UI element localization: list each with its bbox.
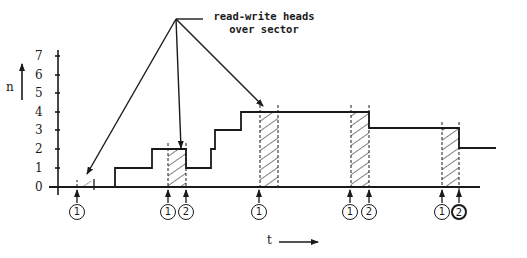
y-tick-4: 4 [35,106,43,118]
y-tick-6: 6 [35,69,43,81]
y-tick-7: 7 [35,50,43,62]
hatched-sector [351,105,369,190]
head-marker-1: 1 [434,204,450,220]
y-axis-label: n [6,80,14,94]
annotation-line-2: over sector [208,23,320,36]
hatched-sector [260,105,278,190]
y-tick-0: 0 [35,181,43,193]
annotation-line-1: read-write heads [208,10,320,23]
head-marker-1: 1 [342,204,358,220]
head-marker-1: 1 [251,204,267,220]
hatched-sectors [77,105,459,190]
head-marker-2: 2 [178,204,194,220]
head-marker-2: 2 [451,204,467,220]
x-axis-label: t [267,233,272,247]
y-axis [55,50,60,195]
y-tick-3: 3 [35,124,43,136]
head-marker-arrows [77,190,459,203]
head-marker-2: 2 [361,204,377,220]
annotation-label: read-write heads over sector [208,10,320,36]
head-marker-1: 1 [160,204,176,220]
hatched-sector [442,122,459,190]
y-tick-5: 5 [35,87,43,99]
y-tick-1: 1 [35,162,43,174]
hatched-sector [77,179,94,190]
y-tick-2: 2 [35,143,43,155]
head-marker-1: 1 [69,204,85,220]
